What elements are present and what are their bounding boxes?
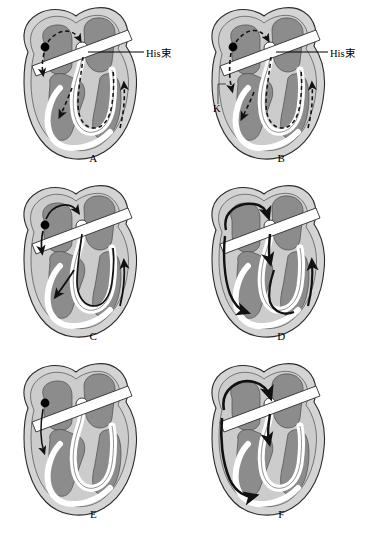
- panel-b: His束 K B: [188, 0, 375, 178]
- focus-dot: [41, 399, 50, 408]
- panel-letter-b: B: [188, 152, 375, 164]
- panel-e: E: [0, 356, 187, 534]
- focus-dot: [41, 43, 50, 52]
- k-pathway-label: K: [213, 103, 221, 114]
- conduction-figure: His束 A His束 K B: [0, 0, 375, 536]
- focus-dot: [229, 43, 238, 52]
- panel-letter-a: A: [0, 152, 187, 164]
- panel-letter-c: C: [0, 330, 187, 342]
- panel-c: C: [0, 178, 187, 356]
- panel-a: His束 A: [0, 0, 187, 178]
- panel-f: F: [188, 356, 375, 534]
- panel-letter-e: E: [0, 508, 187, 520]
- panel-d: D: [188, 178, 375, 356]
- panel-letter-d: D: [188, 330, 375, 342]
- panel-letter-f: F: [188, 508, 375, 520]
- focus-dot: [41, 221, 50, 230]
- his-bundle-label-a: His束: [146, 45, 171, 60]
- his-bundle-label-b: His束: [330, 45, 355, 60]
